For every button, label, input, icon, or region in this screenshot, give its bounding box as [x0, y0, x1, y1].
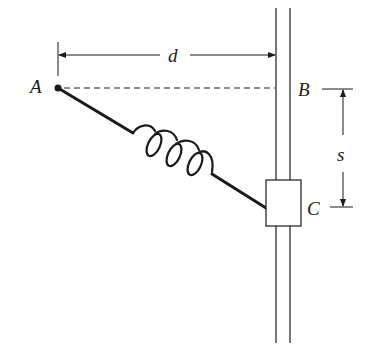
label-a: A: [28, 76, 42, 97]
spring-collar-diagram: d A C B s: [0, 0, 371, 356]
spring: [58, 88, 266, 208]
vertical-rod: [276, 8, 290, 343]
collar-c: [266, 180, 301, 226]
label-d: d: [168, 45, 178, 66]
label-b: B: [298, 79, 310, 100]
label-c: C: [307, 198, 320, 219]
label-s: s: [337, 144, 344, 165]
dimension-d: [58, 42, 275, 76]
